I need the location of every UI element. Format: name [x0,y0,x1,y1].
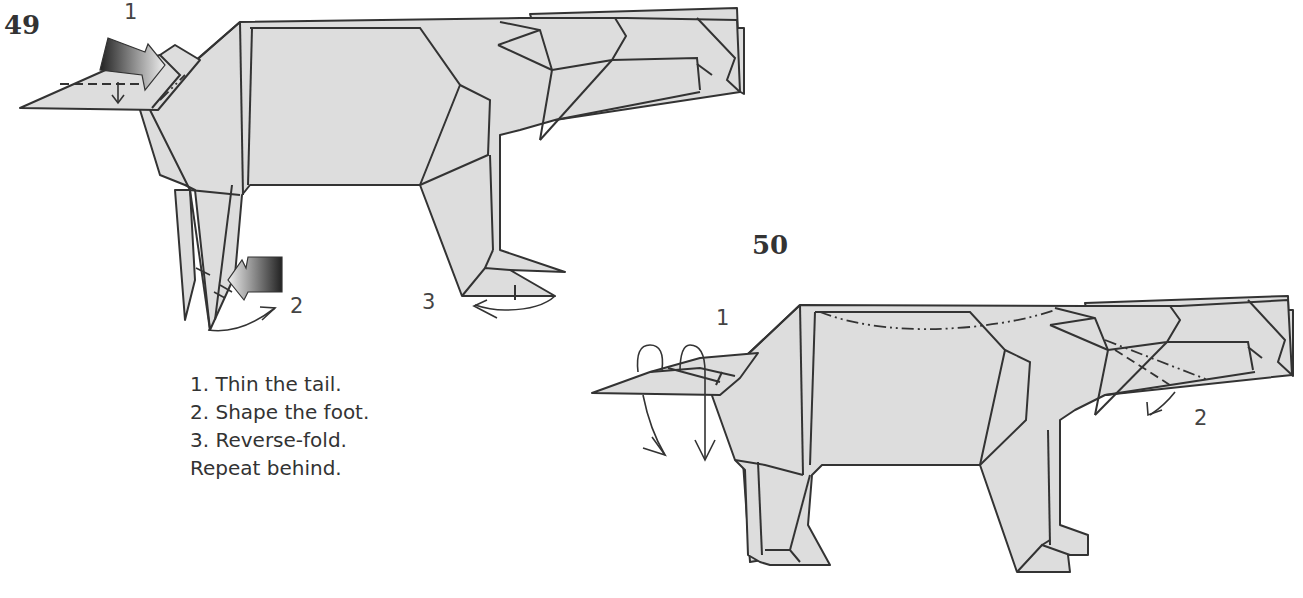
step-50-model [592,296,1293,572]
origami-diagram [0,0,1303,598]
fold-arrow-head [1147,392,1175,415]
